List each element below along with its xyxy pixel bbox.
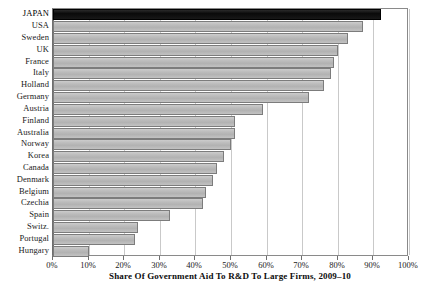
bar-denmark xyxy=(53,175,213,186)
bar-row xyxy=(53,151,224,162)
category-label-finland: Finland xyxy=(0,115,49,126)
category-label-portugal: Portugal xyxy=(0,233,49,244)
bar-germany xyxy=(53,92,309,103)
bar-row xyxy=(53,210,170,221)
tick-label-10pct: 10% xyxy=(80,260,96,271)
category-label-uk: UK xyxy=(0,44,49,55)
bar-row xyxy=(53,234,135,245)
category-label-switz: Switz. xyxy=(0,221,49,232)
bar-korea xyxy=(53,151,224,162)
chart-container: JAPANUSASwedenUKFranceItalyHollandGerman… xyxy=(0,0,423,291)
tick-label-0pct: 0% xyxy=(46,260,57,271)
bar-row xyxy=(53,175,213,186)
bar-italy xyxy=(53,68,331,79)
bar-holland xyxy=(53,80,324,91)
tick-label-20pct: 20% xyxy=(115,260,131,271)
bar-row xyxy=(53,9,381,20)
bar-series xyxy=(53,9,407,255)
category-label-usa: USA xyxy=(0,20,49,31)
category-label-canada: Canada xyxy=(0,162,49,173)
tick-label-100pct: 100% xyxy=(398,260,418,271)
category-label-germany: Germany xyxy=(0,91,49,102)
tick-label-70pct: 70% xyxy=(293,260,309,271)
tick-label-90pct: 90% xyxy=(364,260,380,271)
bar-row xyxy=(53,104,263,115)
bar-norway xyxy=(53,139,231,150)
category-label-korea: Korea xyxy=(0,150,49,161)
category-label-holland: Holland xyxy=(0,79,49,90)
category-label-italy: Italy xyxy=(0,67,49,78)
tick-label-80pct: 80% xyxy=(329,260,345,271)
bar-row xyxy=(53,57,334,68)
tick-label-40pct: 40% xyxy=(186,260,202,271)
bar-australia xyxy=(53,128,235,139)
bar-uk xyxy=(53,45,338,56)
bar-row xyxy=(53,222,138,233)
bar-row xyxy=(53,92,309,103)
bar-belgium xyxy=(53,187,206,198)
bar-row xyxy=(53,68,331,79)
bar-france xyxy=(53,57,334,68)
bar-austria xyxy=(53,104,263,115)
bar-row xyxy=(53,187,206,198)
tick-label-60pct: 60% xyxy=(258,260,274,271)
bar-row xyxy=(53,139,231,150)
x-axis-ticks: 0%10%20%30%40%50%60%70%80%90%100% xyxy=(0,256,423,270)
category-axis-labels: JAPANUSASwedenUKFranceItalyHollandGerman… xyxy=(0,8,49,256)
category-label-japan: JAPAN xyxy=(0,8,49,19)
bar-row xyxy=(53,163,217,174)
bar-row xyxy=(53,128,235,139)
bar-switz xyxy=(53,222,138,233)
bar-sweden xyxy=(53,33,348,44)
bar-canada xyxy=(53,163,217,174)
bar-usa xyxy=(53,21,363,32)
category-label-australia: Australia xyxy=(0,127,49,138)
category-label-czechia: Czechia xyxy=(0,197,49,208)
tick-label-50pct: 50% xyxy=(222,260,238,271)
bar-spain xyxy=(53,210,170,221)
plot-area xyxy=(52,8,408,256)
bar-row xyxy=(53,45,338,56)
tick-label-30pct: 30% xyxy=(151,260,167,271)
bar-row xyxy=(53,116,235,127)
category-label-france: France xyxy=(0,56,49,67)
category-label-belgium: Belgium xyxy=(0,186,49,197)
bar-czechia xyxy=(53,198,203,209)
bar-finland xyxy=(53,116,235,127)
category-label-hungary: Hungary xyxy=(0,245,49,256)
category-label-norway: Norway xyxy=(0,138,49,149)
bar-row xyxy=(53,33,348,44)
bar-portugal xyxy=(53,234,135,245)
category-label-austria: Austria xyxy=(0,103,49,114)
category-label-denmark: Denmark xyxy=(0,174,49,185)
bar-row xyxy=(53,21,363,32)
gridline-100 xyxy=(409,9,410,255)
bar-row xyxy=(53,198,203,209)
bar-row xyxy=(53,80,324,91)
bar-japan xyxy=(53,9,381,20)
category-label-spain: Spain xyxy=(0,209,49,220)
category-label-sweden: Sweden xyxy=(0,32,49,43)
x-axis-title: Share Of Government Aid To R&D To Large … xyxy=(52,271,408,281)
